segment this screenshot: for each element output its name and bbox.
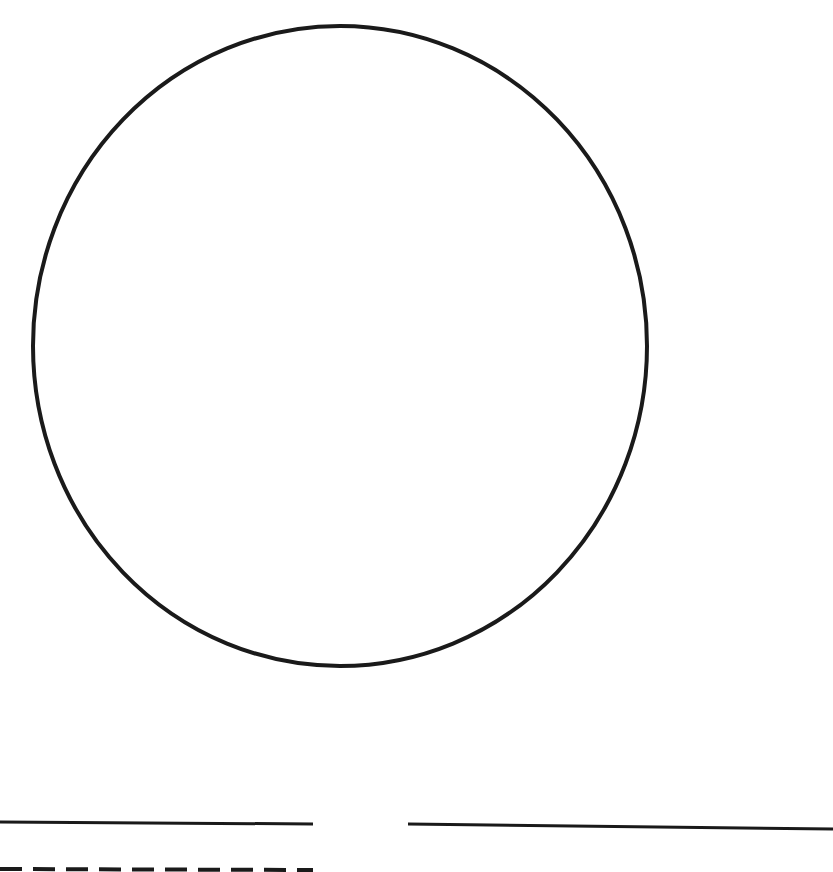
dashed-line-left [0,869,313,870]
solid-line-right [408,824,833,829]
circle-shape [33,26,647,666]
solid-line-left [0,822,313,824]
diagram-canvas [0,0,833,872]
